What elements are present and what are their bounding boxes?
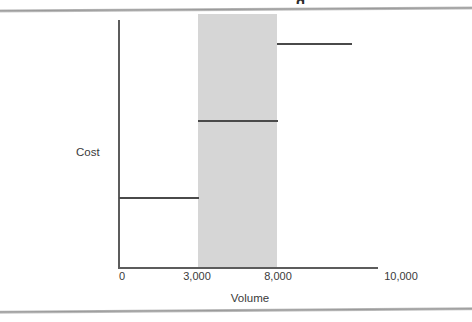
x-tick-label-10000: 10,000 [384, 270, 418, 282]
relevant-range-band [198, 14, 277, 268]
x-tick-label-3000: 3,000 [183, 270, 211, 282]
step-segment-2 [198, 120, 278, 122]
step-segment-3 [277, 43, 352, 45]
x-tick-label-0: 0 [119, 270, 125, 282]
y-axis-title: Cost [76, 146, 100, 158]
x-tick-label-8000: 8,000 [264, 270, 292, 282]
x-axis-title: Volume [231, 292, 269, 304]
x-axis-line [118, 267, 378, 269]
y-axis-line [118, 20, 120, 269]
step-segment-1 [119, 197, 199, 199]
